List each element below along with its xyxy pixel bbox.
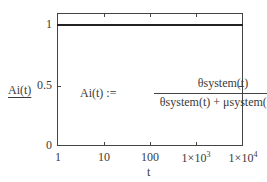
x-tick-mark (150, 13, 151, 17)
x-tick-label-10: 10 (79, 150, 129, 165)
fraction-bar (154, 93, 267, 94)
x-tick-mark (150, 142, 151, 146)
y-tick-mark (57, 86, 61, 87)
x-tick-label-1: 1 (33, 150, 83, 165)
x-axis-title: t (147, 165, 150, 180)
x-tick-label-100: 100 (125, 150, 175, 165)
x-tick-label-1e4: 1×104 (218, 150, 267, 166)
x-tick-mark (196, 13, 197, 17)
y-tick-label-1: 1 (22, 17, 52, 32)
x-tick-mark (104, 142, 105, 146)
x-tick-label-1e3: 1×103 (171, 150, 221, 166)
x-tick-mark (196, 142, 197, 146)
x-tick-mark (104, 13, 105, 17)
availability-curve (57, 24, 243, 26)
formula-lhs: Ai(t) := (80, 86, 116, 101)
formula-annotation: Ai(t) := θsystem(t) θsystem(t) + μsystem… (80, 76, 250, 110)
formula-numerator: θsystem(t) (163, 76, 267, 91)
formula-denominator: θsystem(t) + μsystem(t) (153, 95, 267, 110)
y-axis-title: Ai(t) (8, 83, 31, 98)
